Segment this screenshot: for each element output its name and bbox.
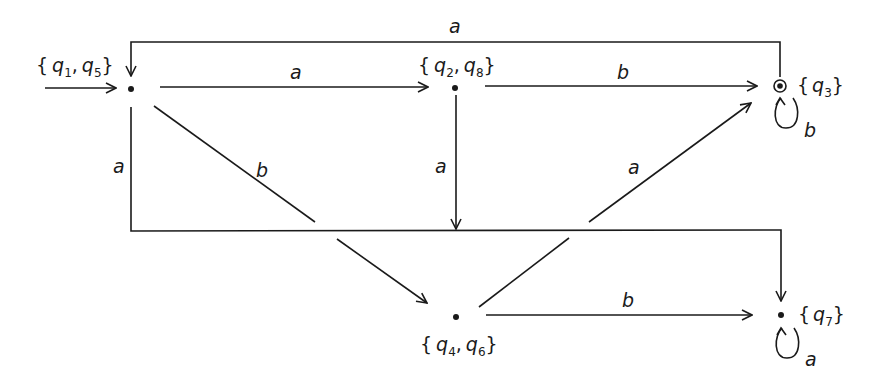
label-q1q5-q2q8: a: [290, 61, 302, 83]
edge-q1q5-to-q4q6-b-lower: [337, 239, 427, 303]
state-q2-q8: [452, 85, 458, 91]
state-label-q2-q8: {q2,q8}: [418, 54, 496, 80]
edge-q1q5-to-q4q6-b-upper: [154, 106, 315, 222]
loop-q3-arrowhead: [776, 98, 785, 105]
state-label-q7: {q7}: [798, 303, 845, 329]
loop-q7-arrowhead: [777, 328, 786, 335]
label-diag-b: b: [256, 159, 268, 181]
edge-q4q6-to-q3-a-lower: [479, 238, 569, 307]
state-q3: [777, 83, 783, 89]
diagram-svg: a a b b a a b a b a {q1,q5} {q2,q8} {q3}…: [0, 0, 882, 387]
state-q1-q5: [128, 86, 134, 92]
label-top-a: a: [449, 15, 461, 37]
edge-q4q6-to-q3-a-upper: [589, 103, 751, 222]
label-mid-a: a: [435, 155, 447, 177]
state-q4-q6: [453, 314, 459, 320]
label-q4q6-q7: b: [622, 289, 634, 311]
state-label-q1-q5: {q1,q5}: [36, 54, 114, 80]
loop-q7-a: [776, 328, 798, 358]
state-label-q3: {q3}: [797, 74, 844, 100]
loop-q3-b: [775, 98, 797, 128]
label-left-a: a: [113, 155, 125, 177]
dfa-diagram: a a b b a a b a b a {q1,q5} {q2,q8} {q3}…: [0, 0, 882, 387]
label-q3-loop: b: [804, 119, 816, 141]
label-q2q8-q3: b: [617, 61, 629, 83]
state-q7: [778, 312, 784, 318]
label-q7-loop: a: [805, 348, 817, 370]
state-label-q4-q6: {q4,q6}: [420, 333, 498, 359]
label-diag-a: a: [628, 156, 640, 178]
